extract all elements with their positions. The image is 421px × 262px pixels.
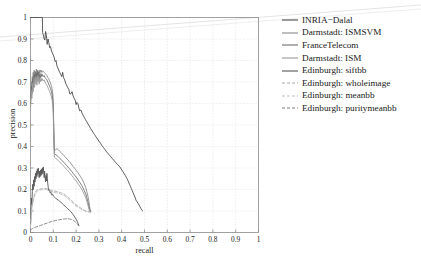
tick-label-y: 0.1 (18, 207, 28, 216)
tick-label-x: 0.1 (49, 235, 59, 244)
curve-series-2 (31, 71, 91, 211)
legend-line-swatch (282, 66, 298, 76)
curve-series-3 (31, 76, 91, 212)
legend-entry[interactable]: Edinburgh: meanbb (282, 90, 421, 103)
legend-entry-label: Darmstadt: ISMSVM (302, 27, 381, 38)
tick-label-y: 1 (23, 13, 27, 22)
legend-entry-label: Edinburgh: meanbb (302, 90, 375, 101)
legend-entry-label: Edinburgh: wholeimage (302, 78, 390, 89)
legend-entry-label: FranceTelecom (302, 40, 359, 51)
data-curves (31, 18, 143, 230)
tick-label-x: 0.3 (94, 235, 104, 244)
tick-label-x: 0.9 (231, 235, 241, 244)
tick-label-x: 0.5 (140, 235, 150, 244)
tick-label-y: 0.7 (18, 78, 28, 87)
tick-label-x: 0.2 (71, 235, 81, 244)
legend-entry-label: Edinburgh: puritymeanbb (302, 103, 397, 114)
legend-line-swatch (282, 28, 298, 38)
gridlines (31, 18, 259, 233)
legend-entry[interactable]: FranceTelecom (282, 39, 421, 52)
legend-entry-label: Darmstadt: ISM (302, 53, 361, 64)
legend-entry-label: INRIA−Dalal (302, 15, 353, 26)
legend-entry[interactable]: Darmstadt: ISM (282, 52, 421, 65)
tick-label-x: 0.8 (208, 235, 218, 244)
tick-label-x: 1 (257, 235, 261, 244)
legend-line-swatch (282, 15, 298, 25)
tick-label-y: 0.9 (18, 35, 28, 44)
chart-legend: INRIA−DalalDarmstadt: ISMSVMFranceTeleco… (282, 14, 421, 115)
legend-entry[interactable]: Edinburgh: wholeimage (282, 77, 421, 90)
y-axis-label: precision (8, 94, 17, 154)
tick-label-x: 0 (29, 235, 33, 244)
legend-entry[interactable]: Edinburgh: puritymeanbb (282, 102, 421, 115)
precision-recall-figure: 00.10.20.30.40.50.60.70.80.9100.10.20.30… (0, 0, 421, 262)
tick-label-x: 0.7 (185, 235, 195, 244)
tick-label-x: 0.6 (163, 235, 173, 244)
legend-line-swatch (282, 78, 298, 88)
tick-label-y: 0.4 (18, 142, 28, 151)
tick-label-y: 0.6 (18, 99, 28, 108)
tick-label-y: 0 (23, 228, 27, 237)
tick-label-y: 0.2 (18, 185, 28, 194)
legend-line-swatch (282, 53, 298, 63)
legend-entry[interactable]: Darmstadt: ISMSVM (282, 27, 421, 40)
legend-line-swatch (282, 40, 298, 50)
legend-line-swatch (282, 91, 298, 101)
tick-label-y: 0.5 (18, 121, 28, 130)
curve-series-7 (31, 219, 79, 230)
legend-entry[interactable]: Edinburgh: siftbb (282, 64, 421, 77)
x-axis-label: recall (31, 246, 259, 255)
tick-label-x: 0.4 (117, 235, 127, 244)
tick-label-y: 0.8 (18, 56, 28, 65)
legend-entry-label: Edinburgh: siftbb (302, 65, 366, 76)
legend-line-swatch (282, 103, 298, 113)
tick-label-y: 0.3 (18, 164, 28, 173)
legend-entry[interactable]: INRIA−Dalal (282, 14, 421, 27)
